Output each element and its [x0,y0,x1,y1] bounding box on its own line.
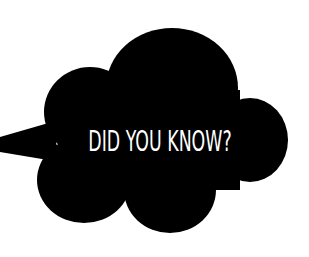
headline-text: DID YOU KNOW? [112,124,209,160]
did-you-know-graphic: DID YOU KNOW? [0,0,309,257]
